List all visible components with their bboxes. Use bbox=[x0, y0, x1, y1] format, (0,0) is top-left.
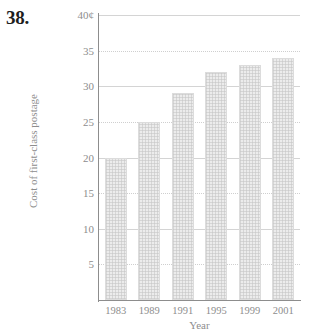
gridline bbox=[99, 229, 300, 230]
bar bbox=[172, 93, 194, 300]
bar bbox=[105, 158, 127, 301]
y-axis-tick-label: 25 bbox=[64, 117, 94, 128]
y-axis-tick-label: 40¢ bbox=[64, 10, 94, 21]
y-axis-tick-label: 5 bbox=[64, 259, 94, 270]
x-axis-line bbox=[98, 300, 301, 301]
gridline bbox=[99, 264, 300, 265]
gridline bbox=[99, 51, 300, 52]
gridline bbox=[99, 86, 300, 87]
x-axis-tick-label: 2001 bbox=[263, 305, 303, 317]
bar bbox=[272, 58, 294, 300]
y-axis-tick-labels: 510152025303540¢ bbox=[62, 15, 94, 300]
bar bbox=[138, 122, 160, 300]
y-axis-tick-label: 20 bbox=[64, 153, 94, 164]
gridline bbox=[99, 158, 300, 159]
bar bbox=[239, 65, 261, 300]
problem-number: 38. bbox=[6, 7, 29, 29]
y-axis-tick-label: 10 bbox=[64, 224, 94, 235]
gridline bbox=[99, 122, 300, 123]
y-axis-tick-label: 15 bbox=[64, 188, 94, 199]
y-axis-tick-label: 35 bbox=[64, 46, 94, 57]
gridline bbox=[99, 15, 300, 16]
bar bbox=[205, 72, 227, 300]
bar-chart-figure: 38. Cost of first-class postage 51015202… bbox=[0, 0, 310, 335]
gridline bbox=[99, 193, 300, 194]
plot-area bbox=[99, 15, 300, 300]
y-axis-title: Cost of first-class postage bbox=[27, 56, 39, 246]
x-axis-title: Year bbox=[99, 319, 300, 331]
y-axis-tick-label: 30 bbox=[64, 81, 94, 92]
